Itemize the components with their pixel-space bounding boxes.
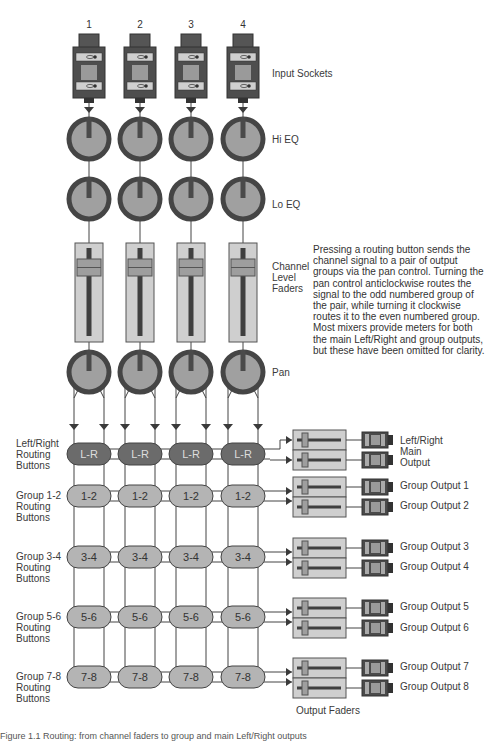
channel-fader[interactable] (229, 243, 257, 342)
lo-eq-knob[interactable] (223, 177, 263, 219)
label-input-sockets: Input Sockets (272, 68, 333, 79)
output-fader-7-8-1[interactable] (293, 658, 346, 678)
label-group-output-2: Group Output 2 (400, 500, 469, 511)
label-group-output-8: Group Output 8 (400, 681, 469, 692)
output-fader-3-4-2[interactable] (293, 558, 346, 578)
routing-button-label: 7-8 (183, 671, 199, 683)
label-group-output-7: Group Output 7 (400, 661, 469, 672)
label-lr-main-output: Left/Right Main Output (400, 435, 443, 468)
routing-button-label: 1-2 (235, 490, 251, 502)
lo-eq-knob[interactable] (120, 177, 160, 219)
pan-knob[interactable] (120, 350, 160, 392)
output-socket-icon (362, 620, 393, 636)
routing-row-L-R: L-RL-RL-RL-R (67, 430, 393, 470)
label-channel-faders: Channel Level Faders (272, 261, 309, 294)
routing-button-1-2-ch1[interactable]: 1-2 (67, 485, 111, 507)
routing-button-7-8-ch2[interactable]: 7-8 (118, 666, 162, 688)
arrow-right-icon (286, 668, 292, 676)
output-socket-icon (362, 600, 393, 616)
routing-button-5-6-ch1[interactable]: 5-6 (67, 606, 111, 628)
arrow-right-icon (286, 497, 292, 505)
routing-button-5-6-ch4[interactable]: 5-6 (221, 606, 265, 628)
output-fader-5-6-1[interactable] (293, 598, 346, 618)
pan-knob[interactable] (223, 350, 263, 392)
output-socket-icon (362, 660, 393, 676)
pan-knob[interactable] (69, 350, 109, 392)
hi-eq-knob[interactable] (223, 117, 263, 159)
routing-button-7-8-ch4[interactable]: 7-8 (221, 666, 265, 688)
output-socket-icon (362, 452, 393, 468)
routing-button-5-6-ch2[interactable]: 5-6 (118, 606, 162, 628)
input-socket-icon (124, 34, 156, 103)
routing-button-label: 3-4 (235, 551, 251, 563)
arrow-down-icon (135, 107, 145, 113)
hi-eq-knob[interactable] (69, 117, 109, 159)
label-group-output-6: Group Output 6 (400, 622, 469, 633)
channel-number: 3 (188, 19, 194, 30)
label-group56-routing: Group 5-6 Routing Buttons (16, 611, 61, 644)
arrow-down-icon (171, 424, 181, 430)
routing-button-L-R-ch4[interactable]: L-R (221, 443, 265, 465)
arrow-down-icon (120, 424, 130, 430)
channel-number: 4 (240, 19, 246, 30)
routing-button-label: 5-6 (235, 611, 251, 623)
input-socket-icon (175, 34, 207, 103)
routing-button-3-4-ch4[interactable]: 3-4 (221, 546, 265, 568)
routing-button-label: 3-4 (183, 551, 199, 563)
routing-button-7-8-ch1[interactable]: 7-8 (67, 666, 111, 688)
label-group-output-1: Group Output 1 (400, 480, 469, 491)
routing-button-5-6-ch3[interactable]: 5-6 (169, 606, 213, 628)
label-lr-routing: Left/Right Routing Buttons (16, 438, 59, 471)
routing-button-7-8-ch3[interactable]: 7-8 (169, 666, 213, 688)
channel-fader[interactable] (75, 243, 103, 342)
output-fader-1-2-2[interactable] (293, 497, 346, 517)
routing-button-L-R-ch1[interactable]: L-R (67, 443, 111, 465)
label-output-faders: Output Faders (296, 705, 360, 716)
routing-button-label: 3-4 (81, 551, 97, 563)
routing-row-5-6: 5-65-65-65-6 (67, 598, 393, 638)
routing-button-label: L-R (182, 448, 200, 460)
label-group-output-5: Group Output 5 (400, 601, 469, 612)
routing-button-L-R-ch2[interactable]: L-R (118, 443, 162, 465)
routing-button-label: 7-8 (81, 671, 97, 683)
routing-button-1-2-ch4[interactable]: 1-2 (221, 485, 265, 507)
output-socket-icon (362, 540, 393, 556)
routing-button-3-4-ch3[interactable]: 3-4 (169, 546, 213, 568)
output-fader-3-4-1[interactable] (293, 538, 346, 558)
lo-eq-knob[interactable] (171, 177, 211, 219)
channel-strip-2: 2 (120, 19, 160, 677)
label-group-output-3: Group Output 3 (400, 541, 469, 552)
hi-eq-knob[interactable] (120, 117, 160, 159)
routing-button-1-2-ch2[interactable]: 1-2 (118, 485, 162, 507)
routing-button-label: 7-8 (132, 671, 148, 683)
output-fader-L-R-1[interactable] (293, 430, 346, 450)
channel-strip-1: 1 (69, 19, 109, 677)
channel-fader[interactable] (126, 243, 154, 342)
routing-description: Pressing a routing button sends the chan… (313, 244, 488, 356)
arrow-right-icon (286, 618, 292, 626)
routing-button-3-4-ch1[interactable]: 3-4 (67, 546, 111, 568)
routing-button-L-R-ch3[interactable]: L-R (169, 443, 213, 465)
arrow-right-icon (286, 487, 292, 495)
pan-knob[interactable] (171, 350, 211, 392)
lo-eq-knob[interactable] (69, 177, 109, 219)
arrow-down-icon (253, 424, 263, 430)
channel-fader[interactable] (177, 243, 205, 342)
arrow-right-icon (286, 558, 292, 566)
routing-button-1-2-ch3[interactable]: 1-2 (169, 485, 213, 507)
channel-strip-3: 3 (171, 19, 211, 677)
label-group34-routing: Group 3-4 Routing Buttons (16, 551, 61, 584)
routing-button-3-4-ch2[interactable]: 3-4 (118, 546, 162, 568)
output-socket-icon (362, 560, 393, 576)
hi-eq-knob[interactable] (171, 117, 211, 159)
output-fader-1-2-1[interactable] (293, 477, 346, 497)
channel-number: 2 (137, 19, 143, 30)
output-fader-5-6-2[interactable] (293, 618, 346, 638)
output-fader-7-8-2[interactable] (293, 678, 346, 698)
routing-button-label: 7-8 (235, 671, 251, 683)
label-hi-eq: Hi EQ (272, 134, 299, 145)
routing-button-label: 5-6 (132, 611, 148, 623)
channel-strip-4: 4 (223, 19, 263, 677)
channel-number: 1 (86, 19, 92, 30)
output-fader-L-R-2[interactable] (293, 450, 346, 470)
